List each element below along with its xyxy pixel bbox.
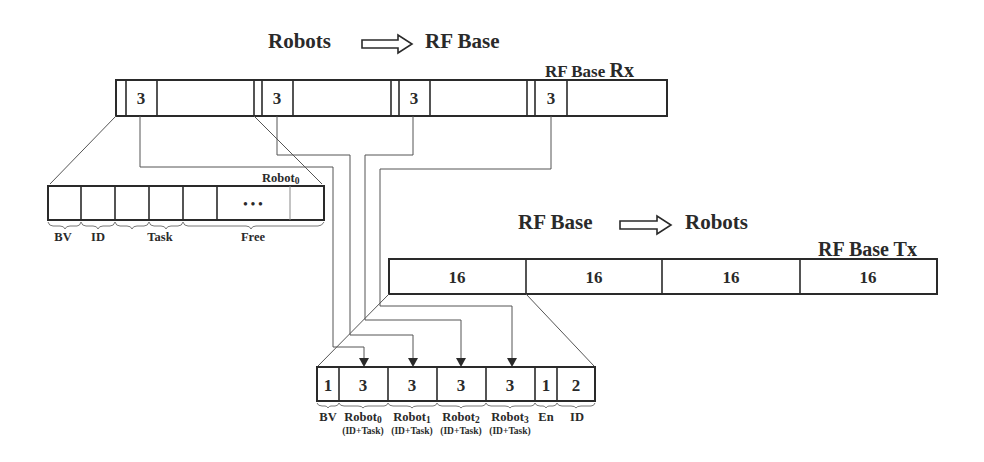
field-label-task: Task — [147, 230, 172, 244]
tx-sublabel-robot1: (ID+Task) — [391, 426, 433, 437]
tx-label-robot1: Robot1 — [393, 410, 431, 425]
rx-slot-2-value: 3 — [273, 89, 282, 108]
tx-frame-label: RF Base Tx — [818, 238, 917, 260]
tx-slot-3-value: 16 — [723, 268, 740, 287]
tx-expansion-lines — [318, 294, 594, 366]
rx-frame-label: RF Base Rx — [545, 59, 634, 81]
arrow-down-icon — [507, 358, 517, 367]
tx-cell-robot2-value: 3 — [457, 376, 466, 395]
field-label-id: ID — [91, 230, 105, 244]
robot0-field-braces — [48, 222, 324, 229]
tx-label-robot2: Robot2 — [442, 410, 480, 425]
arrow-down-icon — [408, 358, 418, 367]
tx-packet: 1 3 3 3 3 1 2 — [317, 367, 595, 401]
tx-label-robot0: Robot0 — [344, 410, 382, 425]
hollow-arrow-icon — [620, 216, 671, 234]
uplink-title: Robots RF Base — [268, 29, 499, 53]
frame-structure-diagram: Robots RF Base RF Base Rx 3 3 3 3 Rob — [0, 0, 984, 462]
robot0-packet: • • • — [48, 186, 324, 220]
tx-sublabel-robot2: (ID+Task) — [440, 426, 482, 437]
tx-cell-robot3-value: 3 — [506, 376, 515, 395]
tx-cell-robot0-value: 3 — [359, 376, 368, 395]
rx-slot-3-value: 3 — [410, 89, 419, 108]
field-label-bv: BV — [54, 230, 71, 244]
arrow-down-icon — [359, 358, 369, 367]
hollow-arrow-icon — [362, 35, 412, 53]
tx-slot-4-value: 16 — [860, 268, 877, 287]
uplink-to-label: RF Base — [425, 29, 499, 53]
arrow-down-icon — [456, 358, 466, 367]
tx-frame: 16 16 16 16 — [389, 259, 937, 294]
robot0-packet-label: Robot0 — [262, 171, 300, 186]
tx-sublabel-robot3: (ID+Task) — [489, 426, 531, 437]
tx-slot-1-value: 16 — [449, 268, 466, 287]
rx-label-main: RF Base — [545, 62, 610, 81]
field-label-free: Free — [241, 230, 266, 244]
downlink-title: RF Base Robots — [518, 210, 748, 234]
slot-connectors — [140, 116, 551, 360]
tx-sublabel-robot0: (ID+Task) — [342, 426, 384, 437]
tx-slot-2-value: 16 — [586, 268, 603, 287]
connector-arrowheads — [359, 358, 517, 367]
rx-label-suffix: Rx — [610, 59, 634, 81]
tx-label-id: ID — [570, 410, 584, 424]
downlink-to-label: Robots — [685, 210, 748, 234]
uplink-from-label: Robots — [268, 29, 331, 53]
rx-slot-4-value: 3 — [547, 89, 556, 108]
downlink-from-label: RF Base — [518, 210, 592, 234]
tx-cell-bv-value: 1 — [324, 376, 333, 395]
tx-cell-id-value: 2 — [572, 376, 581, 395]
tx-label-robot3: Robot3 — [491, 410, 529, 425]
rx-slot-1-value: 3 — [137, 89, 146, 108]
tx-packet-braces — [317, 403, 595, 408]
ellipsis: • • • — [243, 197, 262, 211]
tx-cell-robot1-value: 3 — [408, 376, 417, 395]
rx-frame: 3 3 3 3 — [116, 80, 667, 116]
tx-cell-en-value: 1 — [542, 376, 551, 395]
tx-label-en: En — [538, 410, 553, 424]
tx-label-bv: BV — [319, 410, 336, 424]
